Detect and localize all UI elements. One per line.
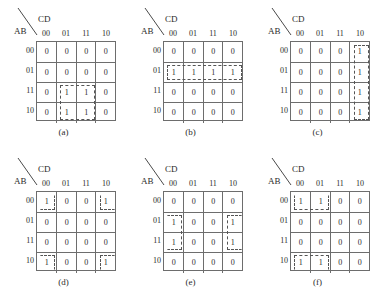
kmap-cell[interactable]: 0 — [349, 213, 369, 233]
kmap-cell[interactable]: 0 — [56, 213, 76, 233]
kmap-cell[interactable]: 0 — [222, 192, 242, 212]
kmap-cell[interactable]: 0 — [203, 83, 223, 103]
kmap-cell[interactable]: 0 — [37, 83, 56, 103]
kmap-cell[interactable]: 0 — [203, 42, 223, 62]
kmap-cell[interactable]: 0 — [76, 192, 96, 212]
kmap-cell[interactable]: 0 — [95, 83, 115, 103]
kmap-cell[interactable]: 0 — [95, 213, 115, 233]
kmap-cell[interactable]: 0 — [291, 63, 310, 83]
column-header-10: 10 — [350, 178, 370, 190]
kmap-cell[interactable]: 0 — [56, 63, 76, 83]
kmap-cell[interactable]: 0 — [203, 253, 223, 273]
kmap-cell[interactable]: 0 — [56, 42, 76, 62]
kmap-cell[interactable]: 1 — [164, 213, 183, 233]
kmap-cell[interactable]: 0 — [291, 83, 310, 103]
kmap-cell[interactable]: 0 — [203, 213, 223, 233]
kmap-cell[interactable]: 1 — [56, 103, 76, 123]
kmap-cell[interactable]: 1 — [349, 63, 369, 83]
kmap-cell[interactable]: 1 — [222, 63, 242, 83]
kmap-cell[interactable]: 1 — [310, 253, 330, 273]
kmap-cell[interactable]: 0 — [310, 213, 330, 233]
kmap-cell[interactable]: 0 — [76, 233, 96, 253]
kmap-cell[interactable]: 0 — [222, 83, 242, 103]
kmap-cell[interactable]: 0 — [330, 213, 350, 233]
kmap-cell[interactable]: 0 — [164, 192, 183, 212]
kmap-cell[interactable]: 0 — [56, 253, 76, 273]
kmap-cell[interactable]: 0 — [183, 233, 203, 253]
kmap-cell[interactable]: 0 — [95, 103, 115, 123]
kmap-cell[interactable]: 0 — [291, 103, 310, 123]
kmap-cell[interactable]: 1 — [222, 213, 242, 233]
kmap-cell[interactable]: 1 — [291, 253, 310, 273]
kmap-cell[interactable]: 1 — [310, 192, 330, 212]
kmap-cell[interactable]: 0 — [37, 42, 56, 62]
kmap-cell[interactable]: 0 — [330, 103, 350, 123]
kmap-cell[interactable]: 0 — [76, 253, 96, 273]
kmap-cell[interactable]: 0 — [330, 42, 350, 62]
kmap-cell[interactable]: 1 — [349, 83, 369, 103]
kmap-cell[interactable]: 1 — [349, 42, 369, 62]
kmap-cell[interactable]: 1 — [222, 233, 242, 253]
kmap-cell[interactable]: 0 — [330, 253, 350, 273]
kmap-cell[interactable]: 1 — [95, 253, 115, 273]
kmap-cell[interactable]: 0 — [164, 253, 183, 273]
kmap-cell[interactable]: 0 — [37, 63, 56, 83]
kmap-cell[interactable]: 0 — [330, 83, 350, 103]
kmap-cell[interactable]: 0 — [56, 233, 76, 253]
kmap-cell[interactable]: 0 — [310, 103, 330, 123]
kmap-cell[interactable]: 0 — [183, 83, 203, 103]
kmap-cell[interactable]: 1 — [37, 253, 56, 273]
kmap-cell[interactable]: 0 — [56, 192, 76, 212]
kmap-cell[interactable]: 0 — [37, 213, 56, 233]
kmap-cell[interactable]: 0 — [310, 63, 330, 83]
kmap-cell[interactable]: 0 — [183, 192, 203, 212]
kmap-cell[interactable]: 0 — [183, 213, 203, 233]
kmap-cell[interactable]: 1 — [37, 192, 56, 212]
kmap-cell[interactable]: 0 — [164, 42, 183, 62]
kmap-cell[interactable]: 0 — [349, 192, 369, 212]
kmap-cell[interactable]: 0 — [330, 233, 350, 253]
column-header-00: 00 — [36, 178, 56, 190]
kmap-cell[interactable]: 0 — [76, 42, 96, 62]
kmap-cell[interactable]: 0 — [95, 233, 115, 253]
kmap-cell[interactable]: 0 — [183, 103, 203, 123]
kmap-cell[interactable]: 0 — [203, 192, 223, 212]
kmap-cell[interactable]: 1 — [56, 83, 76, 103]
kmap-cell[interactable]: 0 — [37, 103, 56, 123]
kmap-cell[interactable]: 1 — [76, 103, 96, 123]
kmap-cell[interactable]: 0 — [203, 103, 223, 123]
kmap-cell[interactable]: 0 — [222, 103, 242, 123]
kmap-cell[interactable]: 0 — [330, 63, 350, 83]
kmap-cell[interactable]: 0 — [310, 83, 330, 103]
kmap-cell[interactable]: 0 — [95, 42, 115, 62]
kmap-cell[interactable]: 0 — [183, 253, 203, 273]
kmap-cell[interactable]: 0 — [291, 213, 310, 233]
kmap-cell[interactable]: 0 — [37, 233, 56, 253]
kmap-cell[interactable]: 0 — [76, 213, 96, 233]
kmap-cell[interactable]: 1 — [164, 63, 183, 83]
kmap-cell[interactable]: 1 — [183, 63, 203, 83]
kmap-cell[interactable]: 0 — [76, 63, 96, 83]
kmap-cell[interactable]: 0 — [349, 253, 369, 273]
kmap-cell[interactable]: 0 — [183, 42, 203, 62]
col-axis-label: CD — [165, 164, 178, 174]
kmap-cell[interactable]: 0 — [310, 42, 330, 62]
kmap-cell[interactable]: 0 — [222, 253, 242, 273]
kmap-cell[interactable]: 1 — [203, 63, 223, 83]
kmap-cell[interactable]: 1 — [349, 103, 369, 123]
kmap-cell[interactable]: 0 — [95, 63, 115, 83]
kmap-cell[interactable]: 0 — [164, 83, 183, 103]
kmap-cell[interactable]: 0 — [330, 192, 350, 212]
kmap-cell[interactable]: 0 — [203, 233, 223, 253]
kmap-cell[interactable]: 0 — [349, 233, 369, 253]
kmap-cell[interactable]: 0 — [291, 42, 310, 62]
kmap-cell[interactable]: 0 — [310, 233, 330, 253]
kmap-cell[interactable]: 0 — [222, 42, 242, 62]
kmap-cell[interactable]: 1 — [76, 83, 96, 103]
kmap-cell[interactable]: 0 — [291, 233, 310, 253]
kmap-cell[interactable]: 1 — [291, 192, 310, 212]
kmap-cell[interactable]: 0 — [164, 103, 183, 123]
row-header-00: 00 — [18, 41, 34, 61]
kmap-cell[interactable]: 1 — [95, 192, 115, 212]
kmap-cell[interactable]: 1 — [164, 233, 183, 253]
